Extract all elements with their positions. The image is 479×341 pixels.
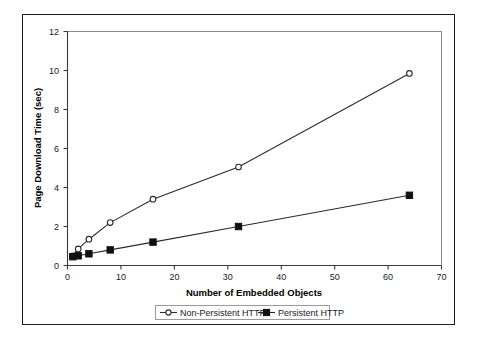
y-tick-label-12: 12 — [49, 27, 59, 37]
data-point-non-persistent-64 — [407, 71, 413, 77]
data-point-non-persistent-32 — [236, 164, 242, 170]
y-tick-label-8: 8 — [54, 105, 59, 115]
x-tick-label-0: 0 — [65, 272, 70, 282]
data-point-non-persistent-4 — [86, 236, 92, 242]
x-tick-label-10: 10 — [116, 272, 126, 282]
data-point-non-persistent-2 — [75, 246, 81, 252]
chart-figure: 0 2 4 6 8 10 12 0 10 20 30 40 — [0, 0, 479, 341]
y-tick-label-10: 10 — [49, 66, 59, 76]
data-point-persistent-32 — [235, 223, 241, 229]
x-tick-label-40: 40 — [276, 272, 286, 282]
plot-area-frame — [68, 32, 442, 266]
y-axis-title: Page Download Time (sec) — [32, 88, 43, 208]
y-axis-ticks: 0 2 4 6 8 10 12 — [49, 27, 68, 271]
legend-marker-open-circle-icon — [166, 310, 171, 315]
y-tick-label-6: 6 — [54, 144, 59, 154]
y-tick-label-0: 0 — [54, 261, 59, 271]
x-tick-label-20: 20 — [169, 272, 179, 282]
y-tick-label-2: 2 — [54, 222, 59, 232]
data-point-persistent-16 — [150, 239, 156, 245]
legend-label-non-persistent-http: Non-Persistent HTTP — [180, 308, 266, 318]
x-tick-label-50: 50 — [330, 272, 340, 282]
x-axis-title: Number of Embedded Objects — [186, 287, 322, 298]
x-tick-label-60: 60 — [383, 272, 393, 282]
legend-label-persistent-http: Persistent HTTP — [278, 308, 344, 318]
data-point-non-persistent-16 — [150, 196, 156, 202]
y-tick-label-4: 4 — [54, 183, 59, 193]
line-chart: 0 2 4 6 8 10 12 0 10 20 30 40 — [0, 0, 479, 341]
data-point-persistent-64 — [406, 192, 412, 198]
data-point-persistent-4 — [86, 251, 92, 257]
x-tick-label-30: 30 — [223, 272, 233, 282]
x-axis-ticks: 0 10 20 30 40 50 60 70 — [65, 266, 447, 283]
series-non-persistent-http — [70, 71, 412, 259]
series-persistent-http — [70, 192, 413, 260]
data-point-persistent-2 — [75, 253, 81, 259]
data-point-persistent-8 — [107, 247, 113, 253]
legend-marker-filled-square-icon — [263, 309, 269, 315]
x-tick-label-70: 70 — [436, 272, 446, 282]
chart-legend: Non-Persistent HTTP Persistent HTTP — [156, 306, 345, 320]
data-point-non-persistent-8 — [107, 220, 113, 226]
